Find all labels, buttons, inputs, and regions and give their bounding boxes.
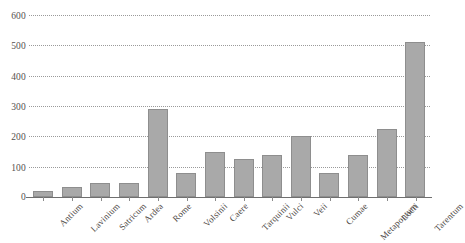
- x-axis-tick-label: Lavinium: [89, 201, 122, 234]
- bar: [176, 173, 196, 197]
- bar: [234, 159, 254, 197]
- x-axis-tick-label: Rome: [170, 201, 193, 224]
- bar-slot: [315, 15, 344, 197]
- bar: [148, 109, 168, 197]
- bar-slot: [29, 15, 58, 197]
- x-axis-tick-label: Locri: [399, 201, 421, 223]
- bars-layer: [29, 15, 430, 197]
- bar-slot: [373, 15, 402, 197]
- bar-slot: [230, 15, 259, 197]
- bar: [205, 152, 225, 198]
- x-axis-tick-label: Veii: [312, 201, 330, 219]
- bar-slot: [86, 15, 115, 197]
- x-axis-tick-label: Tarentum: [432, 201, 465, 234]
- y-axis-tick-label: 400: [11, 71, 26, 81]
- bar: [119, 183, 139, 197]
- bar: [348, 155, 368, 197]
- y-axis-tick-label: 200: [11, 132, 26, 142]
- y-axis-tick-label: 100: [11, 162, 26, 172]
- bar-slot: [115, 15, 144, 197]
- x-axis-tick-label: Volsinii: [201, 201, 229, 229]
- bar-slot: [58, 15, 87, 197]
- bar-slot: [172, 15, 201, 197]
- y-axis-tick-label: 500: [11, 41, 26, 51]
- bar: [319, 173, 339, 197]
- y-axis-tick-label: 600: [11, 11, 26, 21]
- bar: [62, 187, 82, 197]
- bar-slot: [344, 15, 373, 197]
- bar-slot: [258, 15, 287, 197]
- x-axis-labels: AntiumLaviniumSatricumArdeaRomeVolsiniiC…: [29, 199, 430, 243]
- bar: [291, 136, 311, 197]
- bar-slot: [287, 15, 316, 197]
- x-axis-line: [26, 197, 432, 198]
- bar-slot: [144, 15, 173, 197]
- bar: [90, 183, 110, 197]
- x-axis-tick-label: Antium: [58, 201, 85, 228]
- bar-slot: [201, 15, 230, 197]
- bar: [405, 42, 425, 197]
- y-axis-tick-label: 300: [11, 102, 26, 112]
- bar-slot: [401, 15, 430, 197]
- x-axis-tick-label: Cumae: [344, 201, 370, 227]
- bar: [262, 155, 282, 197]
- bar: [377, 129, 397, 197]
- x-axis-tick-label: Caere: [228, 201, 251, 224]
